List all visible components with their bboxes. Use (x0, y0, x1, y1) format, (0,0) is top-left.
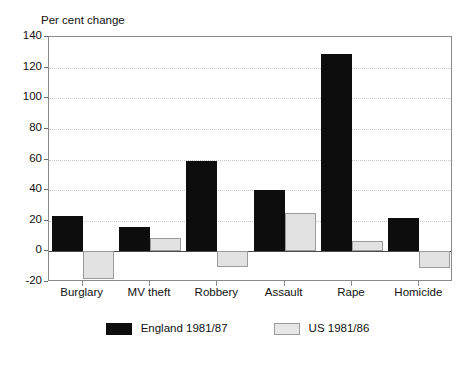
y-tick-label: 100 (6, 91, 42, 103)
y-tick-label: 60 (6, 153, 42, 165)
y-tick-mark (44, 159, 48, 160)
x-axis-label-robbery: Robbery (183, 286, 250, 299)
y-tick-mark (44, 189, 48, 190)
bar-burglary-us (83, 251, 114, 279)
gridline (49, 129, 451, 130)
y-tick-label: 40 (6, 183, 42, 195)
chart-container: Per cent change -20020406080100120140 Bu… (0, 0, 475, 373)
y-tick-mark (44, 220, 48, 221)
legend-item-england[interactable]: England 1981/87 (106, 322, 228, 335)
y-tick-mark (44, 97, 48, 98)
y-tick-label: 0 (6, 244, 42, 256)
x-axis-label-homicide: Homicide (385, 286, 452, 299)
gridline (49, 98, 451, 99)
x-axis-label-mv-theft: MV theft (115, 286, 182, 299)
y-tick-label: 20 (6, 214, 42, 226)
plot-inner (49, 37, 451, 280)
bar-robbery-england (186, 161, 217, 251)
bar-burglary-england (52, 216, 83, 251)
bar-homicide-us (419, 251, 450, 268)
gridline (49, 68, 451, 69)
gridline (49, 160, 451, 161)
bar-mv-theft-england (119, 227, 150, 252)
bar-homicide-england (388, 218, 419, 252)
y-tick-label: 140 (6, 30, 42, 42)
y-tick-mark (44, 36, 48, 37)
plot-area (48, 36, 452, 281)
legend-swatch-icon (106, 323, 132, 335)
bar-robbery-us (217, 251, 248, 266)
bar-assault-us (285, 213, 316, 251)
bar-mv-theft-us (150, 238, 181, 252)
x-axis-label-burglary: Burglary (48, 286, 115, 299)
y-tick-label: -20 (6, 275, 42, 287)
y-tick-mark (44, 281, 48, 282)
legend-label: England 1981/87 (141, 322, 228, 335)
y-tick-label: 80 (6, 122, 42, 134)
bar-assault-england (254, 190, 285, 251)
legend-swatch-icon (274, 323, 300, 335)
bar-rape-england (321, 54, 352, 252)
x-axis-label-assault: Assault (250, 286, 317, 299)
chart-legend: England 1981/87US 1981/86 (0, 322, 475, 335)
y-axis-title: Per cent change (41, 14, 125, 27)
gridline (49, 190, 451, 191)
y-tick-mark (44, 128, 48, 129)
legend-label: US 1981/86 (309, 322, 370, 335)
y-tick-label: 120 (6, 61, 42, 73)
bar-rape-us (352, 241, 383, 252)
y-tick-mark (44, 67, 48, 68)
legend-item-us[interactable]: US 1981/86 (274, 322, 370, 335)
x-axis-label-rape: Rape (317, 286, 384, 299)
y-tick-mark (44, 250, 48, 251)
